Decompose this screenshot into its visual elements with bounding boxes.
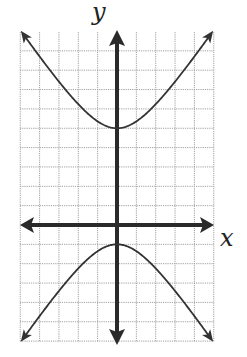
y-axis: [109, 30, 125, 345]
curve-arrow-icon: [21, 31, 32, 44]
curve-arrow-icon: [21, 329, 32, 342]
curve-arrow-icon: [202, 31, 213, 44]
curve-arrow-icon: [202, 329, 213, 342]
hyperbola-graph: [0, 0, 247, 357]
x-axis-label: x: [220, 226, 234, 250]
y-axis-label: y: [92, 0, 106, 24]
